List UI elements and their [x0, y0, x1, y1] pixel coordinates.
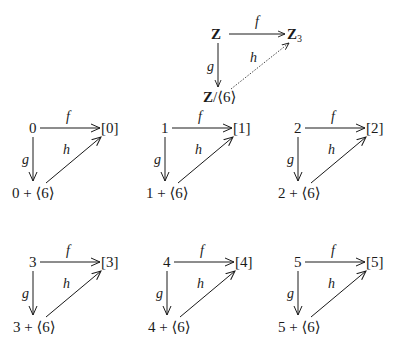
node-coset: 3 + ⟨6⟩: [13, 319, 56, 335]
label-g: g: [287, 152, 294, 167]
label-h: h: [328, 276, 335, 291]
node-target: [2]: [366, 120, 384, 136]
label-h: h: [63, 142, 70, 157]
node-coset: 0 + ⟨6⟩: [12, 185, 55, 201]
arrow-h: [311, 137, 366, 183]
label-g: g: [22, 286, 29, 301]
commutative-diagrams: Z Z3 Z/⟨6⟩ f g h 0 [0] 0 + ⟨6⟩ f g h 1 […: [0, 0, 403, 346]
label-f: f: [331, 243, 337, 258]
label-g: g: [22, 152, 29, 167]
label-h: h: [328, 142, 335, 157]
node-coset: 2 + ⟨6⟩: [278, 185, 321, 201]
label-h: h: [195, 142, 202, 157]
node-coset: 1 + ⟨6⟩: [146, 185, 189, 201]
label-g: g: [154, 152, 161, 167]
label-h: h: [63, 276, 70, 291]
instance-diagram-3: 3 [3] 3 + ⟨6⟩ f g h: [13, 243, 119, 335]
node-target: [0]: [101, 120, 119, 136]
node-target: [1]: [233, 120, 251, 136]
node-z: Z: [211, 26, 221, 42]
node-quotient-z: Z: [203, 89, 213, 105]
node-source: 0: [29, 120, 37, 136]
node-source: 2: [294, 120, 302, 136]
label-h: h: [250, 50, 257, 65]
label-g: g: [287, 286, 294, 301]
label-f: f: [66, 243, 72, 258]
node-source: 5: [294, 254, 302, 270]
node-source: 1: [161, 120, 169, 136]
node-source: 3: [29, 254, 37, 270]
node-target: [5]: [366, 254, 384, 270]
instance-diagram-0: 0 [0] 0 + ⟨6⟩ f g h: [12, 109, 119, 201]
label-f: f: [198, 109, 204, 124]
node-coset: 5 + ⟨6⟩: [278, 319, 321, 335]
node-coset: 4 + ⟨6⟩: [148, 319, 191, 335]
arrow-h: [178, 137, 233, 183]
arrow-h: [311, 271, 366, 317]
arrow-h: [46, 271, 101, 317]
label-f: f: [331, 109, 337, 124]
instance-diagram-2: 2 [2] 2 + ⟨6⟩ f g h: [278, 109, 384, 201]
node-target: [3]: [101, 254, 119, 270]
node-z3-sub: 3: [297, 33, 302, 44]
node-z3: Z3: [287, 26, 302, 44]
node-z3-main: Z: [287, 26, 297, 42]
node-source: 4: [163, 254, 171, 270]
arrow-h: [46, 137, 101, 183]
instance-diagram-4: 4 [4] 4 + ⟨6⟩ f g h: [148, 243, 253, 335]
label-f: f: [255, 14, 261, 29]
label-f: f: [66, 109, 72, 124]
instance-diagram-1: 1 [1] 1 + ⟨6⟩ f g h: [146, 109, 251, 201]
node-target: [4]: [235, 254, 253, 270]
node-quotient-rest: /⟨6⟩: [213, 89, 236, 105]
label-h: h: [197, 276, 204, 291]
main-diagram: Z Z3 Z/⟨6⟩ f g h: [203, 14, 302, 105]
instance-diagram-5: 5 [5] 5 + ⟨6⟩ f g h: [278, 243, 384, 335]
node-quotient: Z/⟨6⟩: [203, 89, 236, 105]
label-g: g: [207, 59, 214, 74]
arrow-h: [180, 271, 235, 317]
arrow-h: [231, 43, 289, 89]
label-g: g: [156, 286, 163, 301]
label-f: f: [200, 243, 206, 258]
